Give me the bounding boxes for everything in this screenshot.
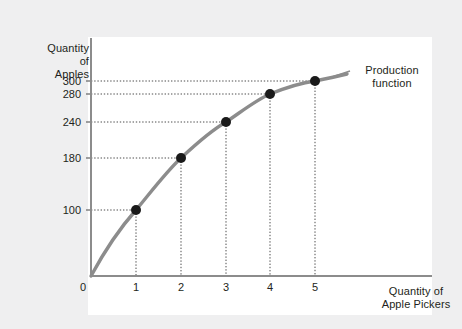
data-point-5 <box>310 76 320 86</box>
ytick-label-300: 300 <box>45 75 81 87</box>
xtick-label-2: 2 <box>171 281 191 293</box>
annotation-line2: function <box>352 77 432 90</box>
production-function-annotation: Production function <box>352 64 432 90</box>
data-point-1 <box>131 205 141 215</box>
ytick-label-280: 280 <box>45 88 81 100</box>
x-axis-title-line1: Quantity of <box>373 285 459 298</box>
xtick-label-1: 1 <box>126 281 146 293</box>
xtick-label-5: 5 <box>305 281 325 293</box>
xtick-label-4: 4 <box>260 281 280 293</box>
y-axis-title-line1: Quantity <box>43 42 89 55</box>
ytick-label-100: 100 <box>45 204 81 216</box>
data-point-2 <box>176 153 186 163</box>
production-function-curve <box>91 74 347 276</box>
x-axis-title: Quantity of Apple Pickers <box>373 285 459 311</box>
production-function-figure: Quantity of Apples Quantity of Apple Pic… <box>0 0 462 329</box>
annotation-line1: Production <box>352 64 432 77</box>
ytick-label-240: 240 <box>45 116 81 128</box>
xtick-label-3: 3 <box>216 281 236 293</box>
data-point-3 <box>221 117 231 127</box>
xtick-label-0: 0 <box>73 281 93 293</box>
data-point-4 <box>265 89 275 99</box>
ytick-label-180: 180 <box>45 152 81 164</box>
x-axis-title-line2: Apple Pickers <box>373 298 459 311</box>
horizontal-guidelines <box>91 81 315 210</box>
